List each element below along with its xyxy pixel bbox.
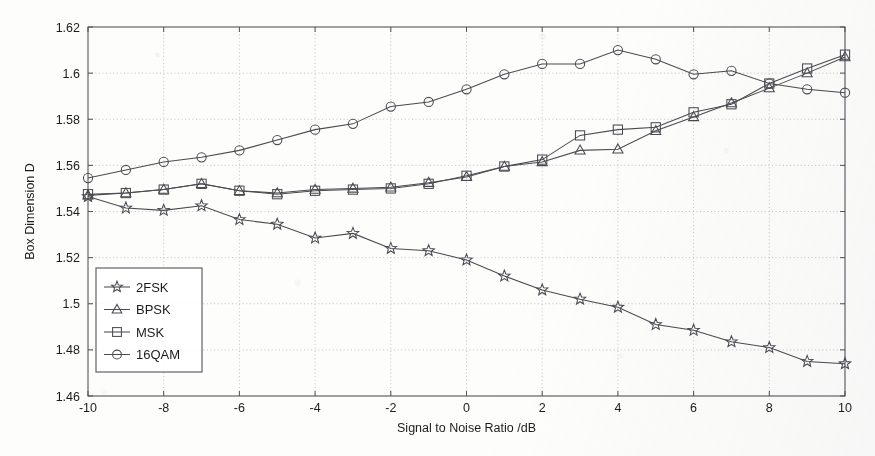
chart-legend[interactable]: 2FSKBPSKMSK16QAM xyxy=(96,268,202,372)
y-tick-label: 1.46 xyxy=(56,390,80,404)
legend-label: BPSK xyxy=(136,302,171,317)
y-tick-label: 1.5 xyxy=(63,297,80,311)
x-tick-label: 10 xyxy=(838,401,852,415)
x-tick-label: -10 xyxy=(79,401,97,415)
star-marker xyxy=(423,245,434,256)
star-marker xyxy=(574,293,585,304)
x-tick-label: -2 xyxy=(385,401,396,415)
star-marker xyxy=(347,227,358,238)
y-tick-label: 1.54 xyxy=(56,205,80,219)
star-marker xyxy=(537,284,548,295)
triangle-marker xyxy=(575,145,585,154)
star-marker xyxy=(764,342,775,353)
star-marker xyxy=(158,204,169,215)
star-marker xyxy=(385,242,396,253)
y-tick-label: 1.56 xyxy=(56,159,80,173)
star-marker xyxy=(801,355,812,366)
chart-figure: -10-8-6-4-20246810 1.461.481.51.521.541.… xyxy=(0,0,875,456)
y-tick-label: 1.52 xyxy=(56,251,80,265)
x-tick-label: -8 xyxy=(158,401,169,415)
triangle-marker xyxy=(802,68,812,77)
star-marker xyxy=(726,336,737,347)
legend-label: 2FSK xyxy=(136,280,169,295)
x-tick-label: 8 xyxy=(766,401,773,415)
star-marker xyxy=(196,200,207,211)
star-marker xyxy=(234,214,245,225)
star-marker xyxy=(612,301,623,312)
box-dimension-vs-snr-chart: -10-8-6-4-20246810 1.461.481.51.521.541.… xyxy=(0,0,875,456)
legend-label: 16QAM xyxy=(136,347,180,362)
triangle-marker xyxy=(196,179,206,188)
x-tick-label: -4 xyxy=(310,401,321,415)
legend-label: MSK xyxy=(136,325,165,340)
x-tick-label: 4 xyxy=(614,401,621,415)
x-tick-label: 2 xyxy=(539,401,546,415)
x-tick-label: 6 xyxy=(690,401,697,415)
x-tick-label: 0 xyxy=(463,401,470,415)
x-axis-title: Signal to Noise Ratio /dB xyxy=(397,421,536,435)
y-tick-label: 1.62 xyxy=(56,21,80,35)
star-marker xyxy=(461,254,472,265)
star-marker xyxy=(272,218,283,229)
triangle-marker xyxy=(613,144,623,153)
star-marker xyxy=(120,202,131,213)
y-tick-label: 1.6 xyxy=(63,67,80,81)
y-axis-title: Box Dimension D xyxy=(23,163,37,260)
x-tick-label: -6 xyxy=(234,401,245,415)
y-tick-label: 1.48 xyxy=(56,343,80,357)
star-marker xyxy=(309,232,320,243)
y-tick-label: 1.58 xyxy=(56,113,80,127)
